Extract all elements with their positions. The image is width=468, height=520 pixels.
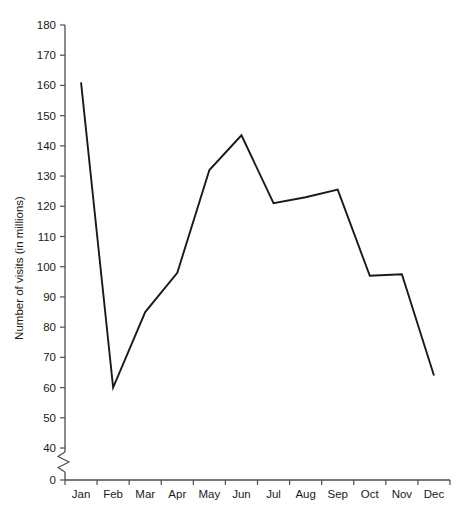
x-tick-label: Dec: [424, 488, 445, 500]
y-tick-label: 110: [38, 231, 56, 243]
x-tick-label: Jun: [232, 488, 251, 500]
y-tick-label: 150: [37, 110, 56, 122]
x-tick-label: Nov: [392, 488, 413, 500]
x-tick-label: Feb: [103, 488, 123, 500]
line-chart: Number of visits (in millions) 040506070…: [0, 0, 468, 520]
y-tick-label: 0: [50, 474, 56, 486]
y-tick-label: 170: [37, 49, 56, 61]
y-tick-label: 70: [43, 351, 56, 363]
chart-canvas: Number of visits (in millions) 040506070…: [0, 0, 468, 520]
y-tick-label: 80: [43, 321, 56, 333]
y-tick-label: 100: [37, 261, 56, 273]
x-tick-label: Sep: [327, 488, 347, 500]
y-tick-label: 50: [43, 412, 56, 424]
x-tick-label: Oct: [361, 488, 380, 500]
y-tick-label: 90: [43, 291, 56, 303]
x-tick-label: May: [199, 488, 221, 500]
y-tick-label: 160: [37, 79, 56, 91]
x-tick-label: Apr: [168, 488, 186, 500]
y-tick-label: 140: [37, 140, 56, 152]
y-tick-label: 40: [43, 442, 56, 454]
y-tick-label: 120: [37, 200, 56, 212]
y-tick-label: 60: [43, 382, 56, 394]
y-axis-title: Number of visits (in millions): [13, 196, 25, 340]
x-tick-label: Aug: [295, 488, 315, 500]
y-tick-label: 180: [37, 19, 56, 31]
x-tick-label: Mar: [135, 488, 155, 500]
x-tick-label: Jan: [72, 488, 91, 500]
y-tick-label: 130: [37, 170, 56, 182]
x-tick-label: Jul: [266, 488, 281, 500]
chart-background: [0, 0, 468, 520]
